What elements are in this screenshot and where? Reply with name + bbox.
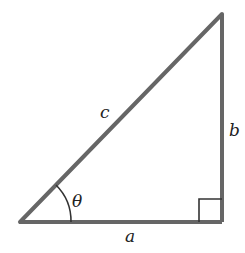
- angle-arc-theta: [56, 185, 71, 222]
- right-triangle-diagram: c b a θ: [0, 0, 245, 253]
- right-angle-marker: [199, 199, 222, 222]
- hypotenuse-c: [20, 14, 222, 222]
- label-b: b: [229, 120, 240, 140]
- label-c: c: [100, 102, 110, 122]
- label-a: a: [125, 226, 135, 246]
- label-theta: θ: [72, 191, 82, 211]
